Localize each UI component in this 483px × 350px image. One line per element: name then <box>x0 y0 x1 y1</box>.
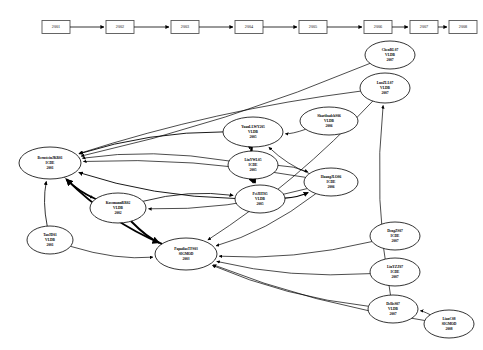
year-label: 2001 <box>52 24 60 29</box>
node-venue: VLDB <box>45 238 55 242</box>
year-label: 2005 <box>309 24 317 29</box>
node-author: TaoJD01 <box>43 233 57 237</box>
node-dellis07[interactable]: DellisS07VLDB2007 <box>368 295 418 323</box>
node-venue: ICDE <box>249 163 258 167</box>
edge-lin05-to-bernstein01 <box>82 154 229 161</box>
node-year: 2003 <box>183 257 190 261</box>
timeline-year-2007[interactable]: 2007 <box>410 21 438 34</box>
node-year: 2005 <box>250 135 257 139</box>
node-author: LinYZZ07 <box>387 265 403 269</box>
node-kossmann02[interactable]: KossmannRR02VLDB2002 <box>90 193 146 223</box>
citation-graph[interactable]: 20012002200320042005200620072008 Bernste… <box>0 0 483 350</box>
node-year: 2006 <box>328 185 335 189</box>
diagram-canvas: 20012002200320042005200620072008 Bernste… <box>0 0 483 350</box>
edge-lian08-to-dellis07 <box>420 311 430 315</box>
node-year: 2007 <box>387 58 394 62</box>
node-venue: VLDB <box>388 307 398 311</box>
node-lian08[interactable]: LianC08SIGMOD2008 <box>424 310 474 338</box>
edge-layer <box>45 63 431 320</box>
node-layer[interactable]: BernsteinJKR01ICDE2001TaoJD01VLDB2001Kos… <box>19 41 474 338</box>
year-label: 2007 <box>420 24 428 29</box>
node-venue: ICDE <box>46 161 55 165</box>
edge-tao01-to-bernstein01 <box>45 181 48 226</box>
node-author: LuoZLL07 <box>377 81 394 85</box>
timeline-layer: 20012002200320042005200620072008 <box>42 21 477 34</box>
timeline-year-2002[interactable]: 2002 <box>106 21 134 34</box>
node-venue: VLDB <box>255 197 265 201</box>
node-lin05[interactable]: LinYWL05ICDE2005 <box>228 151 278 179</box>
node-deng07[interactable]: DengZS07ICDE2007 <box>370 222 420 250</box>
year-label: 2008 <box>459 24 467 29</box>
node-author: DengZS07 <box>387 229 403 233</box>
node-venue: VLDB <box>324 119 334 123</box>
node-venue: ICDE <box>327 180 336 184</box>
node-venue: VLDB <box>113 206 123 210</box>
edge-yuan05-to-bernstein01 <box>79 132 223 154</box>
edge-kossmann02-to-bernstein01 <box>66 179 95 199</box>
node-author: BernsteinJKR01 <box>38 156 63 160</box>
node-chen07[interactable]: ChenRL07VLDB2007 <box>365 41 415 69</box>
node-venue: SIGMOD <box>442 322 457 326</box>
year-label: 2003 <box>181 24 189 29</box>
node-year: 2002 <box>115 211 122 215</box>
year-label: 2002 <box>116 24 124 29</box>
year-label: 2004 <box>245 24 254 29</box>
node-year: 2006 <box>326 124 333 128</box>
node-year: 2008 <box>446 327 453 331</box>
node-huang06[interactable]: HuangJLO06ICDE2006 <box>304 168 358 196</box>
edge-dellis07-to-papadias03 <box>212 265 368 306</box>
node-linyz07[interactable]: LinYZZ07ICDE2007 <box>370 258 420 286</box>
node-author: ChenRL07 <box>382 48 399 52</box>
node-author: SharifzadehS06 <box>317 114 341 118</box>
node-year: 2001 <box>47 243 54 247</box>
node-author: YuanLLWY205 <box>241 125 265 129</box>
timeline-year-2008[interactable]: 2008 <box>449 21 477 34</box>
node-year: 2007 <box>382 91 389 95</box>
node-bernstein01[interactable]: BernsteinJKR01ICDE2001 <box>19 147 81 179</box>
node-tao01[interactable]: TaoJD01VLDB2001 <box>27 226 73 254</box>
node-year: 2007 <box>392 239 399 243</box>
node-venue: VLDB <box>248 130 258 134</box>
timeline-year-2006[interactable]: 2006 <box>364 21 392 34</box>
node-venue: SIGMOD <box>179 252 194 256</box>
node-yuan05[interactable]: YuanLLWY205VLDB2005 <box>223 117 283 147</box>
node-year: 2007 <box>390 312 397 316</box>
node-venue: VLDB <box>380 86 390 90</box>
node-year: 2007 <box>392 275 399 279</box>
timeline-year-2004[interactable]: 2004 <box>235 21 263 34</box>
node-author: DellisS07 <box>386 302 400 306</box>
node-author: KossmannRR02 <box>106 201 131 205</box>
node-pei05[interactable]: PeiJHT05VLDB2005 <box>235 185 285 213</box>
node-year: 2001 <box>47 166 54 170</box>
node-author: PapadiasTFS03 <box>174 247 198 251</box>
edge-kossmann02-to-pei05 <box>143 193 233 201</box>
edge-deng07-to-papadias03 <box>219 242 372 258</box>
year-label: 2006 <box>374 24 382 29</box>
node-author: LinYWL05 <box>244 158 261 162</box>
node-author: LianC08 <box>442 317 455 321</box>
node-year: 2005 <box>257 202 264 206</box>
node-sharifzadeh06[interactable]: SharifzadehS06VLDB2006 <box>300 107 358 135</box>
edge-sharifzadeh06-to-yuan05 <box>285 129 305 133</box>
timeline-year-2003[interactable]: 2003 <box>171 21 199 34</box>
edge-tao01-to-papadias03 <box>71 246 153 257</box>
node-author: PeiJHT05 <box>253 192 268 196</box>
edge-pei05-to-bernstein01 <box>79 172 235 198</box>
edge-linyz07-to-papadias03 <box>217 261 370 274</box>
node-venue: ICDE <box>391 234 400 238</box>
node-venue: ICDE <box>391 270 400 274</box>
node-year: 2005 <box>250 168 257 172</box>
timeline-year-2005[interactable]: 2005 <box>299 21 327 34</box>
node-luo07[interactable]: LuoZLL07VLDB2007 <box>360 73 410 103</box>
node-author: HuangJLO06 <box>321 175 342 179</box>
node-papadias03[interactable]: PapadiasTFS03SIGMOD2003 <box>155 238 217 270</box>
timeline-year-2001[interactable]: 2001 <box>42 21 70 34</box>
node-venue: VLDB <box>385 53 395 57</box>
